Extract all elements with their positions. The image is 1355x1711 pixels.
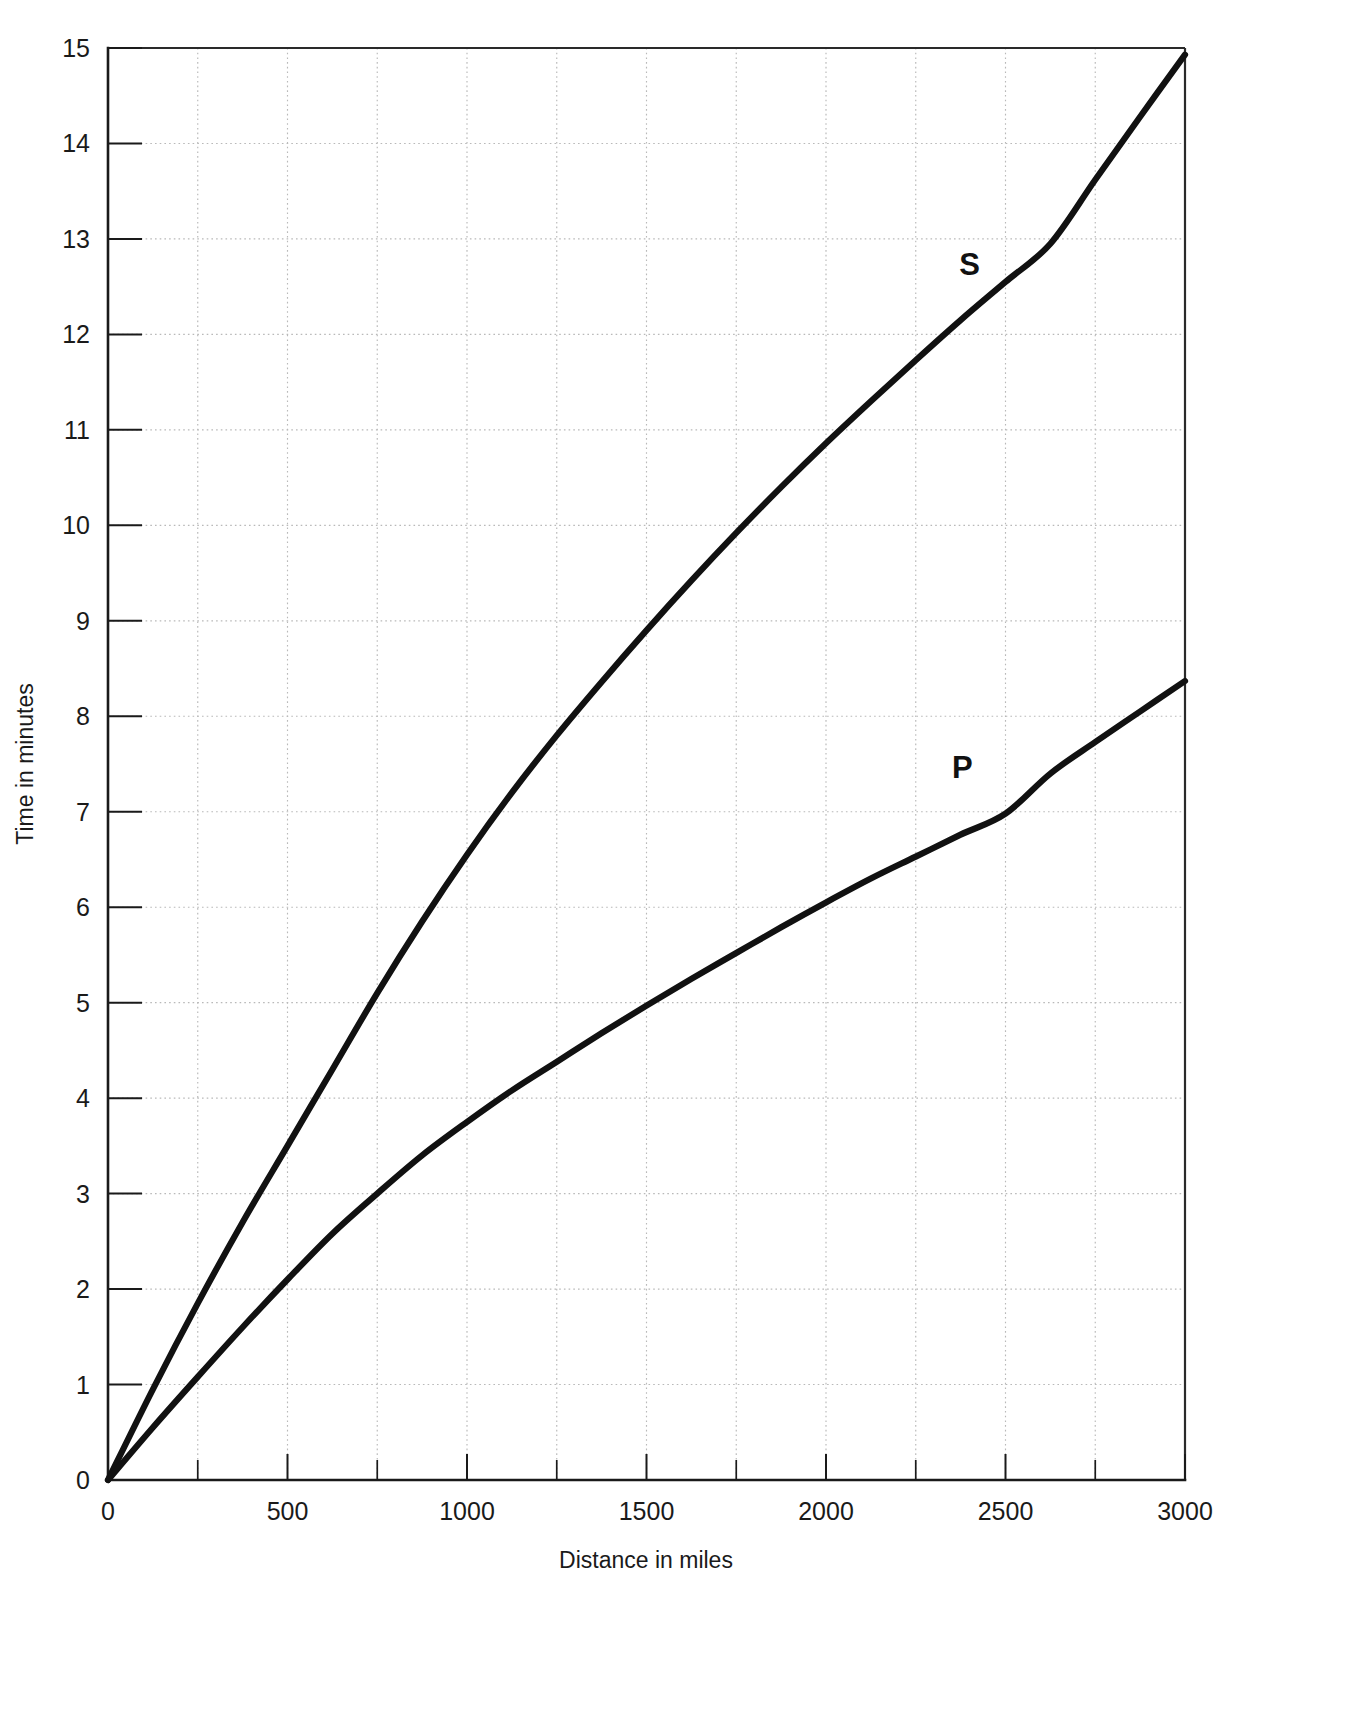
y-axis-tick-label: 11	[64, 416, 90, 444]
x-axis-tick-label: 2500	[978, 1497, 1034, 1525]
y-axis-tick-label: 15	[62, 34, 90, 62]
x-axis-tick-label: 500	[267, 1497, 309, 1525]
x-axis-tick-label: 3000	[1157, 1497, 1213, 1525]
y-axis-tick-label: 6	[76, 893, 90, 921]
y-axis-tick-label: 14	[62, 129, 90, 157]
y-axis-tick-label: 13	[62, 225, 90, 253]
y-axis-tick-label: 7	[76, 798, 90, 826]
y-axis-tick-label: 9	[76, 607, 90, 635]
travel-time-chart: 0123456789101112131415 05001000150020002…	[0, 0, 1355, 1711]
curve-label-s: S	[959, 247, 980, 282]
y-axis-tick-label: 3	[76, 1180, 90, 1208]
y-axis-tick-label: 1	[76, 1371, 90, 1399]
y-axis-tick-label: 10	[62, 511, 90, 539]
x-axis-tick-labels: 050010001500200025003000	[101, 1497, 1213, 1525]
curve-label-p: P	[952, 750, 973, 785]
x-axis-tick-label: 0	[101, 1497, 115, 1525]
y-axis-tick-label: 8	[76, 702, 90, 730]
x-axis-tick-label: 1500	[619, 1497, 675, 1525]
y-axis-tick-label: 5	[76, 989, 90, 1017]
chart-figure: 0123456789101112131415 05001000150020002…	[0, 0, 1355, 1711]
y-axis-tick-label: 0	[76, 1466, 90, 1494]
y-axis-tick-label: 12	[62, 320, 90, 348]
y-axis-tick-labels: 0123456789101112131415	[62, 34, 90, 1494]
x-axis-title: Distance in miles	[559, 1547, 733, 1573]
y-axis-tick-label: 2	[76, 1275, 90, 1303]
x-axis-tick-label: 1000	[439, 1497, 495, 1525]
y-axis-title: Time in minutes	[12, 683, 38, 844]
x-axis-tick-label: 2000	[798, 1497, 854, 1525]
y-axis-tick-label: 4	[76, 1084, 90, 1112]
